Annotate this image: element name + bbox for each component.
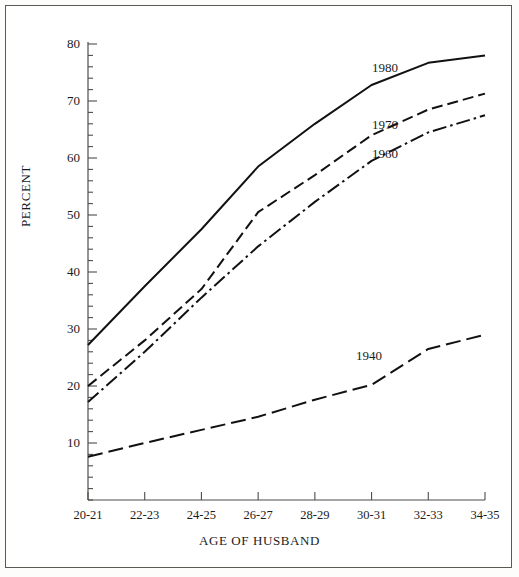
x-tick-label: 24-25 [187,508,216,523]
y-tick-label: 60 [0,150,80,166]
y-tick-label: 10 [0,435,80,451]
x-tick-label: 34-35 [470,508,499,523]
y-tick-label: 70 [0,93,80,109]
x-axis-title: AGE OF HUSBAND [0,533,519,549]
series-label-1940: 1940 [356,348,382,364]
series-line-1940 [88,335,485,457]
x-tick-label: 26-27 [244,508,273,523]
y-tick-label: 20 [0,378,80,394]
series-label-1960: 1960 [372,146,398,162]
series-label-1970: 1970 [372,117,398,133]
series-line-1960 [88,115,485,402]
x-tick-label: 22-23 [130,508,159,523]
x-tick-label: 30-31 [357,508,386,523]
chart-series [88,55,485,456]
series-line-1970 [88,94,485,386]
figure-page: PERCENT AGE OF HUSBAND 8070605040302010 … [0,0,519,577]
y-tick-label: 80 [0,36,80,52]
y-tick-label: 50 [0,207,80,223]
x-tick-label: 28-29 [300,508,329,523]
y-tick-label: 30 [0,321,80,337]
x-tick-label: 32-33 [414,508,443,523]
y-tick-label: 40 [0,264,80,280]
series-label-1980: 1980 [372,60,398,76]
line-chart [0,0,519,577]
x-tick-label: 20-21 [73,508,102,523]
series-line-1980 [88,55,485,345]
